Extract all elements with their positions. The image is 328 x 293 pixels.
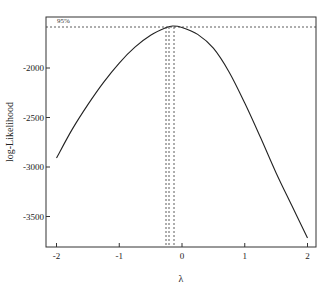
x-tick-label: -1: [116, 251, 124, 261]
loglik-curve: [57, 26, 308, 238]
x-tick-label: 1: [243, 251, 248, 261]
x-tick-label: 0: [180, 251, 185, 261]
plot-frame: [46, 17, 316, 247]
x-tick: 0: [180, 243, 185, 261]
x-tick: 1: [243, 243, 248, 261]
curve-path: [57, 26, 308, 238]
y-tick-label: -3000: [23, 162, 44, 172]
x-axis-label: λ: [179, 273, 184, 284]
x-tick-label: 2: [305, 251, 310, 261]
y-tick-label: -3500: [23, 212, 44, 222]
y-tick-label: -2000: [23, 63, 44, 73]
x-axis: -2-1012: [53, 243, 310, 261]
y-axis-label: log-Likelihood: [4, 102, 15, 162]
ci-label: 95%: [57, 17, 70, 25]
ci-lines: [46, 27, 316, 247]
x-tick-label: -2: [53, 251, 61, 261]
chart: -2-1012 -2000-2500-3000-3500 95% λ log-L…: [0, 0, 328, 293]
y-tick-label: -2500: [23, 113, 44, 123]
x-tick: 2: [305, 243, 310, 261]
x-tick: -1: [116, 243, 124, 261]
x-tick: -2: [53, 243, 61, 261]
